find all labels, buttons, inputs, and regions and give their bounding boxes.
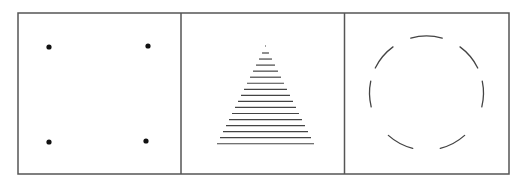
circle-arc-segment xyxy=(482,81,484,107)
dot xyxy=(46,44,51,49)
dot xyxy=(46,139,51,144)
panel-dividers xyxy=(181,13,345,174)
panel-line-triangle xyxy=(217,46,314,144)
circle-arc-segment xyxy=(440,135,464,148)
dot xyxy=(143,138,148,143)
circle-arc-segment xyxy=(388,135,412,148)
circle-arc-segment xyxy=(460,47,478,68)
dot xyxy=(145,43,150,48)
circle-arc-segment xyxy=(370,81,372,107)
three-panel-figure xyxy=(0,0,531,188)
circle-arc-segment xyxy=(411,36,442,38)
circle-arc-segment xyxy=(375,47,393,68)
panel-four-dots xyxy=(46,43,150,144)
panel-broken-circle xyxy=(370,36,484,148)
